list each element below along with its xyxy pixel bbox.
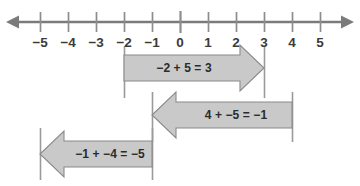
jump-neg1-plus-neg4-label: −1 + −4 = −5 bbox=[70, 147, 150, 161]
number-line-axis-layer bbox=[6, 11, 354, 33]
tick-label-neg5: −5 bbox=[26, 36, 54, 50]
tick-label-0: 0 bbox=[166, 36, 194, 50]
tick-label-neg1: −1 bbox=[138, 36, 166, 50]
tick-label-5: 5 bbox=[306, 36, 334, 50]
jump-4-plus-neg5-label: 4 + −5 = −1 bbox=[196, 108, 276, 122]
jump-neg2-plus-5-label: −2 + 5 = 3 bbox=[144, 61, 224, 75]
number-line-figure: −5−4−3−2−1012345 −2 + 5 = 34 + −5 = −1−1… bbox=[0, 0, 360, 186]
tick-label-neg4: −4 bbox=[54, 36, 82, 50]
tick-label-neg3: −3 bbox=[82, 36, 110, 50]
tick-label-4: 4 bbox=[278, 36, 306, 50]
tick-label-1: 1 bbox=[194, 36, 222, 50]
axis-left-arrowhead bbox=[6, 16, 19, 29]
tick-label-neg2: −2 bbox=[110, 36, 138, 50]
axis-right-arrowhead bbox=[341, 16, 354, 29]
tick-label-2: 2 bbox=[222, 36, 250, 50]
figure-canvas bbox=[0, 0, 360, 186]
tick-label-3: 3 bbox=[250, 36, 278, 50]
